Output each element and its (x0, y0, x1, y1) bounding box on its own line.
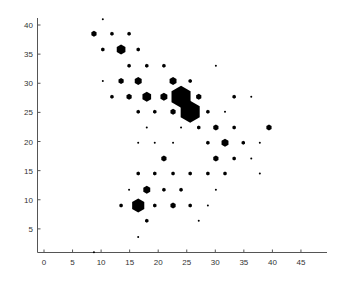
y-tick-label: 25 (24, 108, 33, 117)
x-tick-label: 10 (97, 258, 106, 267)
hexbin-point (206, 110, 209, 114)
hexbin-point (153, 204, 156, 208)
hexbin-point (259, 173, 261, 175)
hexbin-point (197, 126, 200, 130)
hexbin-point (136, 110, 139, 114)
hexbin-scatter-chart: 051015202530354045 510152025303540 (0, 0, 345, 282)
hexbin-point (145, 219, 148, 223)
hexbin-point (132, 199, 144, 213)
hexbin-point (206, 172, 209, 176)
y-ticks: 510152025303540 (24, 21, 40, 234)
hexbin-point (198, 220, 200, 222)
x-tick-label: 15 (125, 258, 134, 267)
y-tick-label: 15 (24, 167, 33, 176)
hexbin-point (137, 236, 139, 238)
hexbin-point (215, 65, 217, 67)
hexbin-point (118, 78, 123, 84)
hexbin-point (188, 172, 191, 176)
hexbin-point (153, 172, 156, 176)
hexbin-point (266, 125, 271, 131)
hexbin-point (91, 31, 96, 37)
hexbin-point (242, 141, 245, 145)
hexbin-point (110, 95, 113, 99)
x-tick-label: 5 (70, 258, 75, 267)
y-tick-label: 5 (29, 225, 34, 234)
hexbin-point (206, 141, 209, 145)
data-points (91, 18, 271, 253)
hexbin-point (126, 94, 131, 100)
hexbin-point (135, 77, 142, 85)
hexbin-point (102, 80, 104, 82)
hexbin-point (250, 157, 252, 159)
hexbin-point (117, 44, 126, 54)
hexbin-point (146, 127, 148, 129)
hexbin-point (213, 155, 218, 161)
hexbin-point (213, 125, 218, 131)
hexbin-point (137, 142, 139, 144)
hexbin-point (160, 93, 167, 101)
hexbin-point (153, 110, 156, 114)
hexbin-point (188, 204, 191, 208)
x-tick-label: 40 (268, 258, 277, 267)
x-tick-label: 30 (211, 258, 220, 267)
hexbin-point (222, 139, 229, 147)
hexbin-point (207, 205, 209, 207)
hexbin-point (196, 94, 201, 100)
hexbin-point (179, 188, 182, 192)
hexbin-point (136, 47, 139, 51)
x-tick-label: 20 (154, 258, 163, 267)
y-tick-label: 20 (24, 138, 33, 147)
hexbin-point (162, 188, 165, 192)
hexbin-point (232, 95, 235, 99)
hexbin-point (170, 203, 175, 209)
hexbin-point (119, 204, 122, 208)
y-tick-label: 40 (24, 21, 33, 30)
hexbin-point (143, 186, 150, 194)
y-tick-label: 30 (24, 79, 33, 88)
hexbin-point (136, 172, 139, 176)
hexbin-point (128, 189, 130, 191)
hexbin-point (110, 32, 113, 36)
x-tick-label: 0 (42, 258, 47, 267)
hexbin-point (215, 189, 217, 191)
hexbin-point (162, 64, 165, 68)
hexbin-point (127, 32, 130, 36)
hexbin-point (224, 111, 226, 113)
hexbin-point (142, 92, 151, 102)
x-tick-label: 25 (182, 258, 191, 267)
hexbin-point (161, 155, 166, 161)
y-tick-label: 10 (24, 196, 33, 205)
hexbin-point (259, 142, 261, 144)
hexbin-point (170, 109, 175, 115)
axes: 051015202530354045 510152025303540 (24, 18, 327, 267)
hexbin-point (170, 77, 177, 85)
hexbin-point (171, 172, 174, 176)
hexbin-point (232, 156, 235, 160)
hexbin-point (127, 64, 130, 68)
hexbin-point (188, 79, 191, 83)
hexbin-point (93, 251, 95, 253)
hexbin-point (180, 127, 182, 129)
hexbin-point (154, 142, 156, 144)
hexbin-point (250, 96, 252, 98)
y-tick-label: 35 (24, 50, 33, 59)
hexbin-point (102, 18, 104, 20)
hexbin-point (101, 47, 104, 51)
x-tick-label: 45 (296, 258, 305, 267)
hexbin-point (232, 126, 235, 130)
hexbin-point (172, 142, 174, 144)
hexbin-point (145, 64, 148, 68)
hexbin-point (223, 172, 226, 176)
x-tick-label: 35 (239, 258, 248, 267)
